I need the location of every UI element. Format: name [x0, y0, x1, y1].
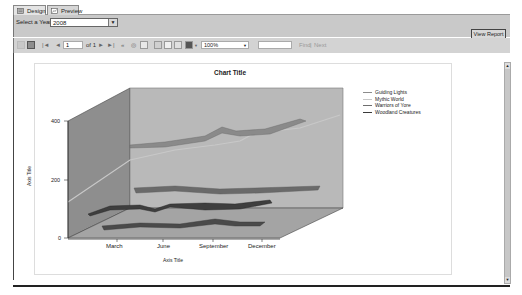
x-tick-december: December	[248, 243, 276, 249]
chart-legend: Guiding Lights Mythic World Warriors of …	[363, 89, 421, 115]
scroll-up-icon[interactable]: ▲	[505, 63, 510, 69]
chart-plot	[0, 0, 522, 295]
scroll-down-icon[interactable]: ▼	[505, 277, 510, 283]
x-tick-june: June	[157, 243, 170, 249]
vertical-scrollbar[interactable]: ▲ ▼	[504, 62, 511, 284]
y-tick-0: 0	[58, 235, 61, 241]
y-axis-title: Axis Title	[26, 166, 32, 186]
x-tick-march: March	[106, 243, 123, 249]
bottom-divider	[13, 285, 510, 287]
x-tick-september: September	[199, 243, 228, 249]
x-axis-title: Axis Title	[163, 257, 183, 263]
legend-item: Woodland Creatures	[363, 109, 421, 116]
y-tick-200: 200	[51, 177, 60, 183]
y-tick-400: 400	[51, 118, 60, 124]
